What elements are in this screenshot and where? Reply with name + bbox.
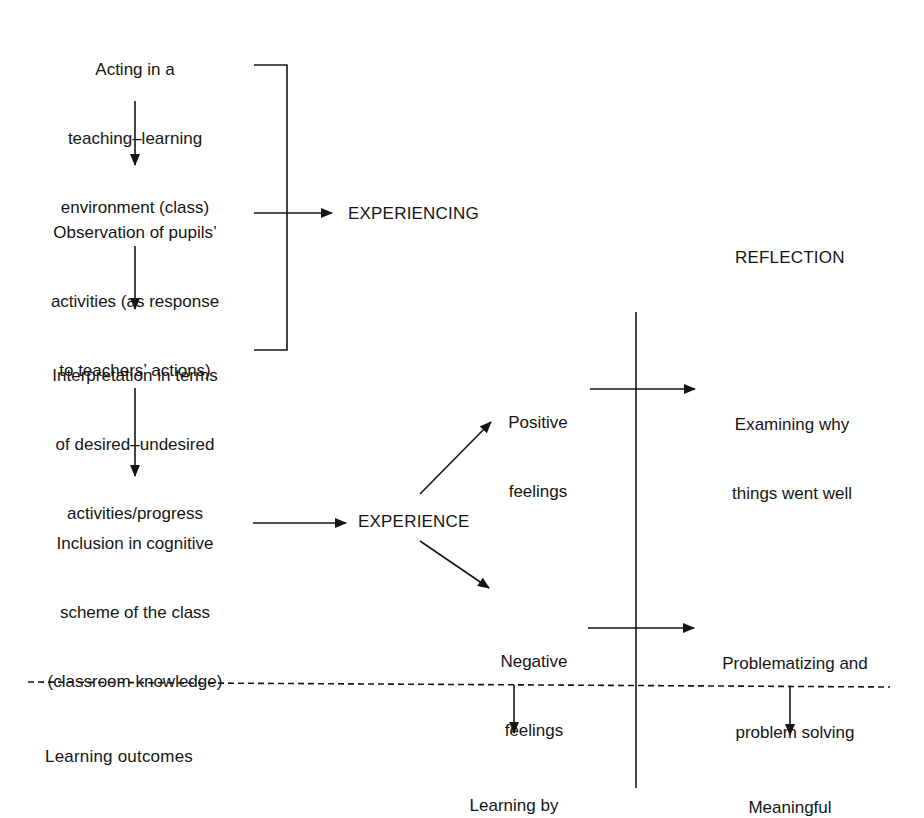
node-interpretation-line-2: of desired–undesired	[25, 433, 245, 456]
arrow-experience-to-positive	[420, 422, 491, 494]
node-acting-line-1: Acting in a	[35, 58, 235, 81]
node-observation-line-1: Observation of pupils’	[25, 221, 245, 244]
node-acting-line-2: teaching–learning	[35, 127, 235, 150]
node-negative-feelings: Negative feelings	[486, 604, 582, 765]
node-interpretation-line-1: Interpretation in terms	[25, 364, 245, 387]
node-learning-by-trial-and-error: Learning by trial and error	[444, 748, 584, 818]
positive-feelings-line-1: Positive	[490, 411, 586, 434]
label-reflection: REFLECTION	[735, 246, 845, 269]
arrow-experience-to-negative	[420, 541, 489, 588]
positive-feelings-line-2: feelings	[490, 480, 586, 503]
node-meaningful-learning: Meaningful learning	[735, 750, 845, 818]
node-positive-feelings: Positive feelings	[490, 365, 586, 526]
label-learning-outcomes: Learning outcomes	[45, 745, 193, 768]
node-inclusion-line-1: Inclusion in cognitive	[25, 532, 245, 555]
node-problematizing: Problematizing and problem solving	[705, 606, 885, 767]
node-examining-why: Examining why things went well	[712, 367, 872, 528]
examining-why-line-2: things went well	[712, 482, 872, 505]
node-inclusion: Inclusion in cognitive scheme of the cla…	[25, 486, 245, 716]
negative-feelings-line-1: Negative	[486, 650, 582, 673]
problematizing-line-2: problem solving	[705, 721, 885, 744]
meaningful-learning-line-1: Meaningful	[735, 796, 845, 818]
examining-why-line-1: Examining why	[712, 413, 872, 436]
label-experiencing: EXPERIENCING	[348, 202, 479, 225]
label-experience: EXPERIENCE	[358, 510, 470, 533]
node-inclusion-line-2: scheme of the class	[25, 601, 245, 624]
node-observation-line-2: activities (as response	[25, 290, 245, 313]
problematizing-line-1: Problematizing and	[705, 652, 885, 675]
node-inclusion-line-3: (classroom knowledge)	[25, 670, 245, 693]
trial-and-error-line-1: Learning by	[444, 794, 584, 817]
experiencing-bracket	[254, 65, 287, 350]
negative-feelings-line-2: feelings	[486, 719, 582, 742]
